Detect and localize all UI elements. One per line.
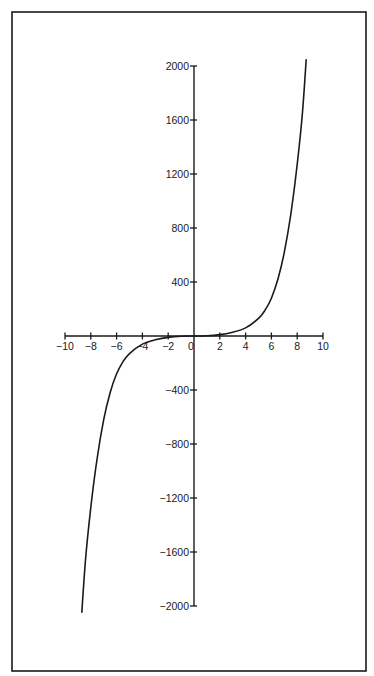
y-tick-label: 1600 xyxy=(166,114,190,126)
x-tick-label: 2 xyxy=(217,340,223,352)
y-tick-label: 2000 xyxy=(166,60,190,72)
y-tick-label: −400 xyxy=(165,384,189,396)
y-tick-label: −1200 xyxy=(160,492,190,504)
y-tick-label: 400 xyxy=(171,276,189,288)
chart: −10−8−6−4−20246810 200016001200800400−40… xyxy=(0,0,374,676)
y-tick-label: −2000 xyxy=(160,600,190,612)
y-tick-label: −1600 xyxy=(160,546,190,558)
y-tick-label: 1200 xyxy=(166,168,190,180)
x-tick-label: −10 xyxy=(56,340,74,352)
y-tick-label: −800 xyxy=(165,438,189,450)
x-tick-label: −6 xyxy=(111,340,123,352)
y-tick-label: 800 xyxy=(171,222,189,234)
x-tick-label: 0 xyxy=(188,340,194,352)
x-tick-label: 4 xyxy=(243,340,249,352)
x-tick-label: 8 xyxy=(294,340,300,352)
x-tick-label: 6 xyxy=(268,340,274,352)
x-tick-label: 10 xyxy=(317,340,329,352)
x-tick-label: −8 xyxy=(85,340,97,352)
x-tick-label: −2 xyxy=(162,340,174,352)
